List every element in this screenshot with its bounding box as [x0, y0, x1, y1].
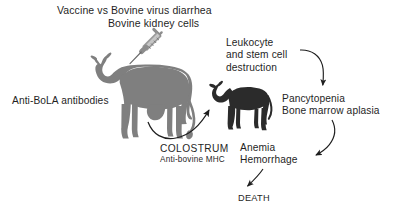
label-pancytopenia-line1: Pancytopenia: [282, 93, 380, 105]
label-anti-bovine-mhc: Anti-bovine MHC: [160, 155, 225, 165]
label-anti-bola-antibodies: Anti-BoLA antibodies: [12, 95, 109, 107]
label-bovine-kidney-cells: Bovine kidney cells: [108, 17, 199, 30]
label-pancytopenia: Pancytopenia Bone marrow aplasia: [282, 93, 380, 118]
label-colostrum: COLOSTRUM: [160, 143, 229, 155]
label-anemia-hemorrhage: Anemia Hemorrhage: [240, 142, 298, 167]
arrow-anemia-to-death: [248, 169, 263, 186]
label-anemia-line1: Anemia: [240, 142, 298, 154]
label-leukocyte-line3: destruction: [226, 62, 287, 74]
label-pancytopenia-line2: Bone marrow aplasia: [282, 105, 380, 117]
label-anemia-line2: Hemorrhage: [240, 154, 298, 166]
label-vaccine: Vaccine vs Bovine virus diarrhea: [57, 4, 212, 17]
diagram-canvas: Vaccine vs Bovine virus diarrhea Bovine …: [0, 0, 398, 213]
arrow-leukocyte-to-pancytopenia: [300, 50, 323, 85]
label-leukocyte-destruction: Leukocyte and stem cell destruction: [226, 37, 287, 74]
label-leukocyte-line2: and stem cell: [226, 49, 287, 61]
label-leukocyte-line1: Leukocyte: [226, 37, 287, 49]
calf-silhouette: [209, 81, 271, 130]
syringe-icon: [130, 29, 162, 63]
arrow-pancytopenia-to-hemorrhage: [316, 120, 335, 155]
label-death: DEATH: [238, 193, 270, 204]
